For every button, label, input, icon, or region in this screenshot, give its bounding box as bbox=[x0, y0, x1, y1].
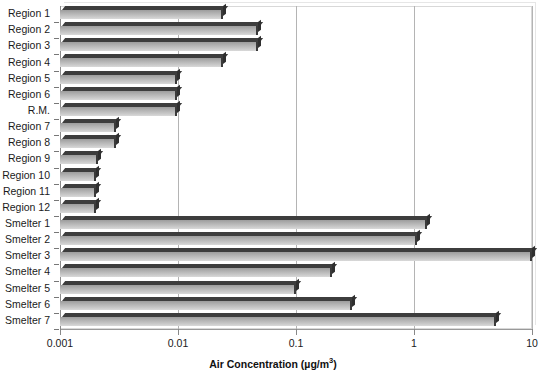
y-axis-label-region-9: Region 9 bbox=[8, 153, 50, 164]
bar-region-4 bbox=[60, 58, 223, 67]
y-axis-label-smelter-5: Smelter 5 bbox=[5, 283, 50, 294]
bar-smelter-1 bbox=[60, 220, 427, 229]
y-axis-tick bbox=[54, 22, 59, 23]
y-axis-tick bbox=[54, 313, 59, 314]
bar-row bbox=[60, 248, 532, 265]
x-axis-ticklabel-0.1: 0.1 bbox=[289, 337, 304, 349]
y-axis-label-smelter-2: Smelter 2 bbox=[5, 234, 50, 245]
bar-side-face bbox=[223, 52, 226, 64]
bar-row bbox=[60, 184, 532, 201]
bar-row bbox=[60, 200, 532, 217]
x-axis-ticklabel-1: 1 bbox=[411, 337, 417, 349]
bar-side-face bbox=[177, 101, 180, 113]
bar-side-face bbox=[332, 262, 335, 274]
bar-side-face bbox=[417, 230, 420, 242]
bar-side-face bbox=[96, 165, 99, 177]
x-axis-ticklabel-0.01: 0.01 bbox=[168, 337, 188, 349]
bar-row bbox=[60, 232, 532, 249]
y-axis-tick bbox=[54, 119, 59, 120]
y-axis-label-smelter-4: Smelter 4 bbox=[5, 266, 50, 277]
y-axis-label-region-5: Region 5 bbox=[8, 73, 50, 84]
bar-region-7 bbox=[60, 123, 116, 132]
bar-side-face bbox=[177, 84, 180, 96]
y-axis-label-r-m-: R.M. bbox=[28, 105, 50, 116]
bar-row bbox=[60, 168, 532, 185]
y-axis-tick bbox=[54, 216, 59, 217]
y-axis-tick bbox=[54, 135, 59, 136]
bar-region-9 bbox=[60, 155, 98, 164]
x-axis-tick-0.1 bbox=[296, 329, 297, 335]
bar-side-face bbox=[223, 4, 226, 16]
bar-region-8 bbox=[60, 139, 116, 148]
bar-row bbox=[60, 54, 532, 71]
bar-row bbox=[60, 103, 532, 120]
bar-row bbox=[60, 297, 532, 314]
x-axis-tick-1 bbox=[414, 329, 415, 335]
x-axis-tick-0.01 bbox=[178, 329, 179, 335]
y-axis-label-region-12: Region 12 bbox=[2, 202, 50, 213]
bar-smelter-5 bbox=[60, 285, 296, 294]
x-axis-tick-10 bbox=[532, 329, 533, 335]
bar-region-3 bbox=[60, 42, 258, 51]
bar-row bbox=[60, 264, 532, 281]
bar-chart: Region 1Region 2Region 3Region 4Region 5… bbox=[0, 0, 546, 380]
bar-row bbox=[60, 216, 532, 233]
bar-smelter-6 bbox=[60, 301, 352, 310]
y-axis-tick bbox=[54, 54, 59, 55]
gridline-10 bbox=[532, 6, 533, 329]
bar-smelter-3 bbox=[60, 252, 532, 261]
x-axis-title-paren: ) bbox=[333, 358, 337, 370]
y-axis-label-smelter-3: Smelter 3 bbox=[5, 250, 50, 261]
y-axis-label-region-11: Region 11 bbox=[3, 186, 50, 197]
bar-side-face bbox=[96, 197, 99, 209]
x-axis-title: Air Concentration (µg/m3) bbox=[0, 356, 546, 370]
bar-side-face bbox=[116, 133, 119, 145]
bar-region-1 bbox=[60, 10, 223, 19]
x-axis-tick-0.001 bbox=[60, 329, 61, 335]
bar-region-11 bbox=[60, 188, 96, 197]
bar-row bbox=[60, 6, 532, 23]
bar-side-face bbox=[258, 36, 261, 48]
bar-region-2 bbox=[60, 26, 258, 35]
bar-smelter-4 bbox=[60, 268, 332, 277]
x-axis-title-text: Air Concentration (µg/m bbox=[209, 358, 329, 370]
y-axis-tick bbox=[54, 87, 59, 88]
y-axis-tick bbox=[54, 232, 59, 233]
y-axis-tick bbox=[54, 200, 59, 201]
bar-row bbox=[60, 151, 532, 168]
y-axis-tick bbox=[54, 264, 59, 265]
bar-side-face bbox=[296, 278, 299, 290]
y-axis-label-region-10: Region 10 bbox=[2, 170, 50, 181]
bar-region-12 bbox=[60, 204, 96, 213]
y-axis-label-smelter-1: Smelter 1 bbox=[5, 218, 50, 229]
bar-side-face bbox=[96, 181, 99, 193]
bar-side-face bbox=[116, 117, 119, 129]
bar-r-m- bbox=[60, 107, 177, 116]
y-axis-tick bbox=[54, 184, 59, 185]
bar-row bbox=[60, 38, 532, 55]
bar-region-10 bbox=[60, 172, 96, 181]
y-axis-label-region-4: Region 4 bbox=[8, 57, 50, 68]
x-axis-ticklabel-0.001: 0.001 bbox=[47, 337, 73, 349]
y-axis-label-region-8: Region 8 bbox=[8, 137, 50, 148]
y-axis-tick bbox=[54, 151, 59, 152]
bar-region-6 bbox=[60, 91, 177, 100]
bar-row bbox=[60, 281, 532, 298]
y-axis-tick bbox=[54, 103, 59, 104]
bar-smelter-7 bbox=[60, 317, 496, 326]
bar-row bbox=[60, 313, 532, 330]
bar-side-face bbox=[427, 214, 430, 226]
bar-row bbox=[60, 135, 532, 152]
bar-row bbox=[60, 119, 532, 136]
y-axis-tick bbox=[54, 297, 59, 298]
bar-side-face bbox=[352, 294, 355, 306]
y-axis-tick bbox=[54, 38, 59, 39]
y-axis-tick bbox=[54, 168, 59, 169]
bar-side-face bbox=[177, 68, 180, 80]
bar-row bbox=[60, 71, 532, 88]
x-axis-ticklabel-10: 10 bbox=[526, 337, 538, 349]
y-axis-labels: Region 1Region 2Region 3Region 4Region 5… bbox=[0, 6, 58, 329]
y-axis-label-smelter-7: Smelter 7 bbox=[5, 315, 50, 326]
bar-side-face bbox=[98, 149, 101, 161]
y-axis-label-region-2: Region 2 bbox=[8, 24, 50, 35]
